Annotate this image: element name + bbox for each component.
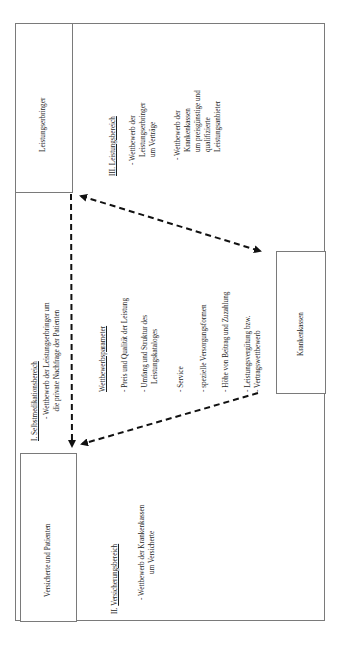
edge-leistungserbringer-krankenkassen	[81, 196, 260, 251]
edges	[0, 0, 343, 646]
edge-krankenkassen-versicherte	[82, 393, 258, 444]
edge-leistungserbringer-versicherte	[71, 194, 72, 446]
